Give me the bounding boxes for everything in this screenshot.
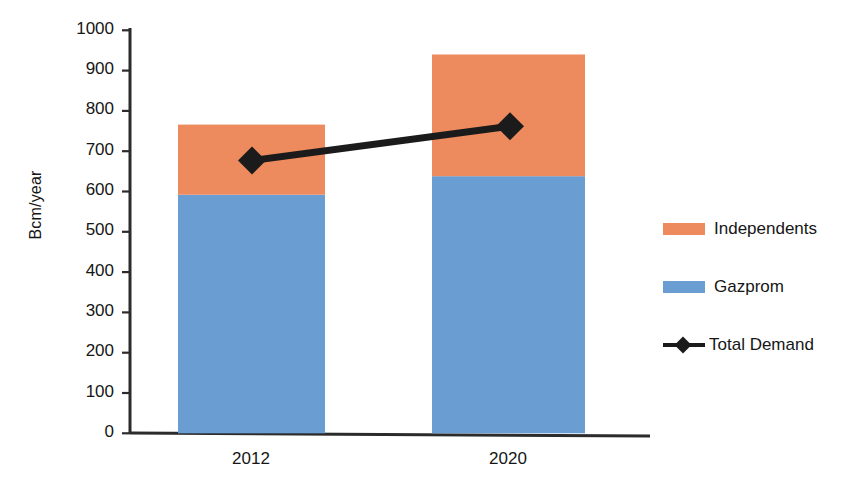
x-axis-line [130, 433, 650, 436]
y-tick-label-900: 900 [52, 59, 114, 79]
y-tick-label-0: 0 [52, 422, 114, 442]
legend-item-independents[interactable]: Independents [663, 200, 858, 258]
y-tick-label-100: 100 [52, 382, 114, 402]
legend-item-total-demand[interactable]: Total Demand [663, 316, 858, 374]
bar-segment-gazprom-2012 [178, 195, 325, 434]
y-tick-label-600: 600 [52, 180, 114, 200]
y-tick-label-200: 200 [52, 341, 114, 361]
legend-label-gazprom: Gazprom [714, 277, 784, 297]
x-tick-label-2020: 2020 [428, 449, 588, 469]
chart-legend: Independents Gazprom Total Demand [663, 200, 858, 374]
line-diamond-swatch-icon [663, 337, 705, 353]
y-tick-label-800: 800 [52, 99, 114, 119]
legend-label-independents: Independents [714, 219, 817, 239]
legend-item-gazprom[interactable]: Gazprom [663, 258, 858, 316]
x-tick-label-2012: 2012 [171, 449, 331, 469]
y-tick-label-400: 400 [52, 261, 114, 281]
y-tick-label-700: 700 [52, 140, 114, 160]
stacked-bar-chart: 1000 900 800 700 600 500 400 300 200 100… [0, 0, 858, 495]
y-tick-label-500: 500 [52, 220, 114, 240]
y-tick-label-300: 300 [52, 301, 114, 321]
legend-label-total-demand: Total Demand [709, 335, 814, 355]
y-axis-title: Bcm/year [27, 125, 45, 285]
bar-segment-gazprom-2020 [432, 176, 585, 433]
y-tick-label-1000: 1000 [52, 19, 114, 39]
blue-swatch-icon [663, 281, 705, 293]
legend-diamond-marker-icon [675, 337, 692, 354]
orange-swatch-icon [663, 223, 705, 235]
